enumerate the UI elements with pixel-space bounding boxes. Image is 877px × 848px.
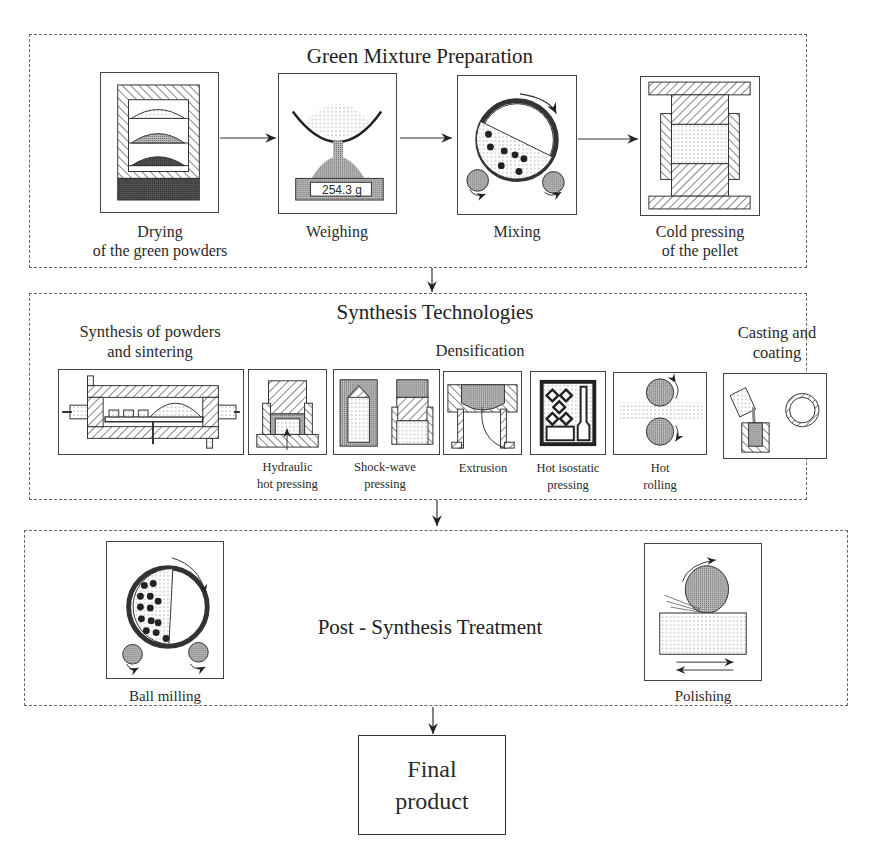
section-title-synthesis: Synthesis Technologies	[290, 300, 580, 325]
final-product-box: Final product	[358, 735, 506, 835]
extrusion-icon	[443, 371, 522, 455]
scale-icon: 254.3 g	[278, 73, 397, 214]
method-label-shock-wave-2: pressing	[330, 476, 440, 493]
group-label-sintering-2: and sintering	[55, 342, 245, 362]
method-label-hot-rolling-2: rolling	[612, 477, 708, 494]
drying-oven-icon	[100, 72, 219, 213]
method-label-hip: Hot isostatic	[522, 460, 614, 477]
hot-rolling-icon	[613, 372, 707, 455]
hydraulic-press-icon	[248, 369, 327, 455]
ball-mill-icon	[106, 541, 224, 679]
scale-display: 254.3 g	[311, 183, 373, 197]
method-label-hot-rolling: Hot	[612, 460, 708, 477]
hot-isostatic-press-icon	[530, 371, 606, 455]
casting-coating-icon	[723, 373, 827, 459]
section-title-green: Green Mixture Preparation	[280, 44, 560, 69]
method-label-shock-wave: Shock-wave	[330, 459, 440, 476]
step-label-cold-pressing: Cold pressing	[625, 222, 775, 241]
method-label-hip-2: pressing	[522, 477, 614, 494]
group-label-casting-2: coating	[722, 343, 832, 363]
step-label-drying: Drying	[80, 222, 240, 241]
final-label-2: product	[395, 785, 468, 817]
shock-wave-press-icon	[333, 369, 440, 455]
final-label-1: Final	[395, 753, 468, 785]
sintering-furnace-icon	[58, 369, 244, 455]
mixing-drum-icon	[457, 75, 577, 215]
group-label-casting: Casting and	[722, 323, 832, 343]
group-label-sintering: Synthesis of powders	[55, 322, 245, 342]
cold-press-icon	[640, 76, 760, 216]
polishing-icon	[644, 543, 762, 681]
method-label-hydraulic: Hydraulic	[240, 459, 335, 476]
method-label-extrusion: Extrusion	[440, 460, 526, 477]
step-label-weighing: Weighing	[277, 222, 397, 241]
group-label-densification: Densification	[400, 341, 560, 361]
method-label-hydraulic-2: hot pressing	[240, 476, 335, 493]
step-label-polishing: Polishing	[643, 687, 763, 706]
step-label-mixing: Mixing	[457, 222, 577, 241]
step-label-drying-2: of the green powders	[70, 241, 250, 260]
step-label-cold-pressing-2: of the pellet	[625, 241, 775, 260]
section-title-post: Post - Synthesis Treatment	[290, 615, 570, 640]
step-label-ball-milling: Ball milling	[105, 687, 225, 706]
